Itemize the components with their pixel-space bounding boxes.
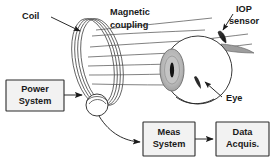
label-magnetic: Magnetic <box>110 7 150 17</box>
iop-sensor-icon <box>218 31 226 43</box>
box-data-acquis-line1: Data <box>233 127 254 137</box>
label-coil: Coil <box>22 11 39 21</box>
box-data-acquis-line2: Acquis. <box>226 139 259 149</box>
label-sensor: sensor <box>229 16 260 26</box>
box-meas-system-line2: System <box>153 139 186 149</box>
label-coupling: coupling <box>110 20 148 30</box>
schematic-diagram: Power System Meas System Data Acquis. Co… <box>0 0 276 161</box>
box-meas-system[interactable]: Meas System <box>143 122 195 156</box>
label-iop: IOP <box>236 4 252 14</box>
box-power-system-line1: Power <box>21 84 49 94</box>
figure-container: Power System Meas System Data Acquis. Co… <box>0 0 276 161</box>
label-eye: Eye <box>226 93 242 103</box>
box-meas-system-line1: Meas <box>158 127 181 137</box>
connector-coil-to-meas <box>99 116 140 142</box>
box-power-system-line2: System <box>19 96 52 106</box>
pupil <box>170 63 174 78</box>
box-power-system[interactable]: Power System <box>6 80 64 111</box>
coil-feed-node <box>86 94 108 116</box>
box-data-acquis[interactable]: Data Acquis. <box>216 122 269 156</box>
leader-coil <box>51 17 80 31</box>
